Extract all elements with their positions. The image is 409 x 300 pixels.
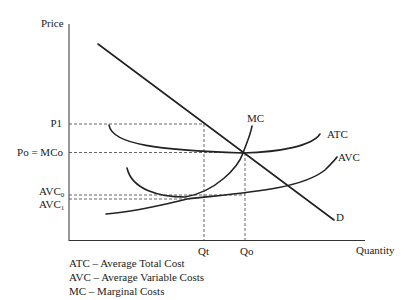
atc-curve-label: ATC bbox=[327, 129, 348, 140]
atc-curve bbox=[109, 125, 320, 153]
avc0-label-base: AVC bbox=[39, 185, 61, 197]
legend-item-mc: MC – Marginal Costs bbox=[69, 284, 204, 298]
avc1-label-base: AVC bbox=[39, 198, 61, 210]
legend: ATC – Average Total Cost AVC – Average V… bbox=[69, 256, 204, 298]
demand-curve bbox=[98, 44, 334, 220]
avc1-label-sub: 1 bbox=[61, 204, 65, 212]
y-axis-label: Price bbox=[41, 18, 64, 29]
x-axis-label: Quantity bbox=[356, 245, 395, 256]
legend-item-avc: AVC – Average Variable Costs bbox=[69, 270, 204, 284]
avc1-label: AVC1 bbox=[39, 199, 64, 212]
mc-curve-label: MC bbox=[247, 113, 264, 124]
avc-curve bbox=[106, 157, 337, 214]
mc-curve bbox=[127, 126, 252, 197]
demand-curve-label: D bbox=[336, 212, 344, 223]
qo-label: Qo bbox=[240, 246, 253, 257]
avc-curve-label: AVC bbox=[338, 152, 360, 163]
avc0-label-sub: 0 bbox=[61, 191, 65, 199]
po-label: Po = MCo bbox=[10, 147, 63, 158]
p1-label: P1 bbox=[36, 118, 62, 129]
cost-curves-diagram: Price Quantity P1 Po = MCo AVC0 AVC1 Qt … bbox=[0, 0, 409, 300]
legend-item-atc: ATC – Average Total Cost bbox=[69, 256, 204, 270]
